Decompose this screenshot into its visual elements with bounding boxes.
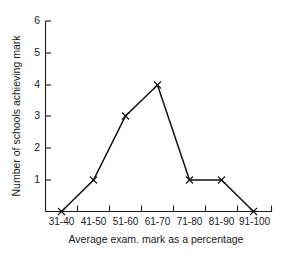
x-axis-title: Average exam. mark as a percentage: [69, 233, 244, 245]
y-tick-label-5: 5: [34, 46, 40, 58]
data-point-marker-61-70[interactable]: [154, 82, 161, 89]
data-point-marker-51-60[interactable]: [122, 113, 129, 120]
x-tick-label-81-90: 81-90: [209, 216, 235, 227]
y-tick-label-3: 3: [34, 109, 40, 121]
x-tick-label-71-80: 71-80: [177, 216, 203, 227]
x-tick-label-91-100: 91-100: [239, 216, 271, 227]
x-tick-label-31-40: 31-40: [49, 216, 75, 227]
x-tick-label-51-60: 51-60: [113, 216, 139, 227]
x-tick-label-41-50: 41-50: [81, 216, 107, 227]
y-tick-label-6: 6: [34, 14, 40, 26]
y-axis-title: Number of schools achieving mark: [10, 35, 22, 197]
line-chart: Number of schools achieving mark 6 5 4 3…: [0, 0, 285, 260]
y-tick-label-1: 1: [34, 173, 40, 185]
x-tick-label-61-70: 61-70: [145, 216, 171, 227]
chart-container: Number of schools achieving mark 6 5 4 3…: [0, 0, 285, 260]
data-series-line: [62, 85, 254, 212]
y-tick-label-2: 2: [34, 141, 40, 153]
y-tick-label-4: 4: [34, 78, 40, 90]
data-point-marker-41-50[interactable]: [90, 177, 97, 184]
